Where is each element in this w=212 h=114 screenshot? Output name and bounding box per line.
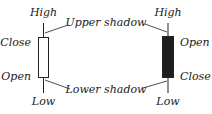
bullish-body bbox=[39, 38, 49, 78]
bearish-high-label: High bbox=[153, 6, 181, 19]
lower-shadow-leader-right bbox=[143, 81, 167, 88]
bearish-close-label: Close bbox=[180, 70, 211, 83]
bullish-close-label: Close bbox=[0, 36, 31, 49]
bullish-open-label: Open bbox=[1, 70, 31, 83]
bearish-low-label: Low bbox=[155, 95, 180, 108]
upper-shadow-leader-right bbox=[145, 24, 167, 32]
bullish-candle: High Close Open Low bbox=[0, 6, 57, 108]
candlestick-diagram: High Close Open Low High Open Close Low … bbox=[0, 0, 212, 114]
bearish-body bbox=[163, 37, 174, 78]
bearish-candle: High Open Close Low bbox=[153, 6, 211, 108]
upper-shadow-label: Upper shadow bbox=[66, 16, 148, 29]
bearish-open-label: Open bbox=[180, 36, 210, 49]
bullish-low-label: Low bbox=[31, 95, 56, 108]
lower-shadow-annotation: Lower shadow bbox=[45, 80, 167, 96]
bullish-high-label: High bbox=[29, 6, 57, 19]
lower-shadow-label: Lower shadow bbox=[65, 83, 148, 96]
upper-shadow-annotation: Upper shadow bbox=[45, 16, 167, 33]
